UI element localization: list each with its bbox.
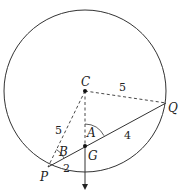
point-C bbox=[83, 89, 87, 93]
point-G bbox=[83, 144, 87, 148]
label-C: C bbox=[81, 75, 90, 89]
label-P: P bbox=[39, 170, 49, 184]
length-label-CQ: 5 bbox=[119, 81, 126, 94]
label-G: G bbox=[88, 149, 98, 163]
angle-label-A: A bbox=[86, 126, 96, 140]
angle-label-B: B bbox=[58, 145, 68, 159]
length-label-GQ: 4 bbox=[124, 129, 131, 142]
diagram-canvas: C G P Q A B 5 5 4 2 bbox=[0, 0, 183, 193]
geometry-diagram: C G P Q A B 5 5 4 2 bbox=[0, 0, 183, 193]
label-Q: Q bbox=[168, 101, 178, 115]
length-label-CP: 5 bbox=[55, 124, 62, 137]
length-label-PG: 2 bbox=[63, 162, 70, 175]
